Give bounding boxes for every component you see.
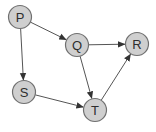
edge-p-to-q [30, 22, 66, 40]
node-label: S [20, 85, 29, 100]
node-t: T [84, 99, 107, 122]
edge-q-to-r [89, 44, 126, 45]
nodes-layer: PQRST [9, 6, 149, 122]
node-s: S [13, 81, 36, 104]
node-q: Q [66, 34, 89, 57]
node-label: T [91, 103, 99, 118]
node-r: R [126, 33, 149, 56]
node-label: R [132, 37, 141, 52]
edge-t-to-r [101, 54, 130, 100]
node-label: P [16, 10, 25, 25]
node-p: P [9, 6, 32, 29]
node-label: Q [72, 38, 82, 53]
edge-s-to-t [35, 95, 83, 107]
edge-p-to-s [21, 28, 24, 80]
edge-q-to-t [80, 56, 92, 98]
directed-graph: PQRST [0, 0, 156, 132]
